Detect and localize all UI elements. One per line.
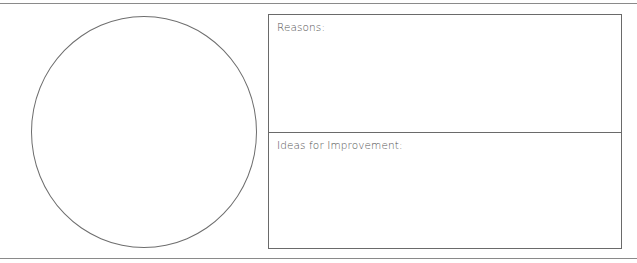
bottom-divider <box>0 258 637 259</box>
ideas-section[interactable]: Ideas for Improvement: <box>269 133 621 248</box>
notes-box: Reasons: Ideas for Improvement: <box>268 14 622 249</box>
top-divider <box>0 3 637 4</box>
drawing-circle[interactable] <box>31 16 257 248</box>
ideas-label: Ideas for Improvement: <box>277 139 403 151</box>
reasons-section[interactable]: Reasons: <box>269 15 621 133</box>
reasons-label: Reasons: <box>277 21 325 33</box>
